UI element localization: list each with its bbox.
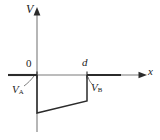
v-a-subscript: A xyxy=(19,88,24,95)
distance-d-label: d xyxy=(82,57,88,68)
v-b-symbol: V xyxy=(91,81,98,93)
v-a-label: VA xyxy=(12,84,24,96)
potential-vs-position-figure: V x 0 d VA VB xyxy=(0,0,160,140)
plot-canvas xyxy=(0,0,160,140)
x-axis-label: x xyxy=(148,66,153,77)
v-axis-arrowhead xyxy=(34,7,41,16)
origin-label: 0 xyxy=(26,58,32,69)
v-b-subscript: B xyxy=(98,86,103,93)
v-b-label: VB xyxy=(91,82,102,94)
potential-curve xyxy=(37,75,87,113)
va-leader-line xyxy=(24,76,34,86)
x-axis-arrowhead xyxy=(139,72,148,78)
v-axis-label: V xyxy=(26,3,33,15)
v-a-symbol: V xyxy=(12,83,19,95)
